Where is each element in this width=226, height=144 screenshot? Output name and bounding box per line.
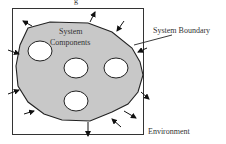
inbound-arrow [117, 21, 124, 31]
boundary-leader-line [134, 35, 172, 45]
inbound-arrow [8, 50, 19, 54]
outbound-arrow [141, 92, 149, 99]
inbound-arrow [8, 90, 19, 94]
inbound-arrow [112, 119, 121, 127]
partial-title-text: g [74, 0, 78, 5]
outbound-arrow [124, 111, 136, 118]
system-component [64, 58, 88, 78]
outbound-arrow [90, 12, 95, 22]
system-component [104, 58, 128, 78]
system-components-label-line2: Components [50, 38, 90, 47]
system-component [64, 91, 88, 111]
system-components-label-line1: System [59, 27, 83, 36]
system-component [28, 41, 52, 61]
inbound-arrow [138, 48, 147, 52]
inbound-arrow [23, 21, 32, 26]
environment-label: Environment [148, 127, 191, 136]
inbound-arrow [24, 111, 34, 114]
system-boundary-label: System Boundary [153, 26, 210, 35]
system-diagram: g System Components System Boundary Envi… [0, 0, 226, 144]
